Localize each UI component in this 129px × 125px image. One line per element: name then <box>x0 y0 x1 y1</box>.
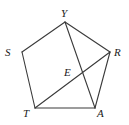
vertex-label-S: S <box>5 47 11 58</box>
edge-S-Y <box>22 22 65 52</box>
edge-T-S <box>22 52 35 108</box>
geometry-figure: YSRTAE <box>0 0 129 125</box>
vertex-label-Y: Y <box>61 8 67 19</box>
vertex-label-R: R <box>114 47 121 58</box>
vertex-label-E: E <box>64 67 71 78</box>
pentagon-outline <box>22 22 110 108</box>
edge-R-A <box>95 52 110 108</box>
edge-Y-R <box>65 22 110 52</box>
diagonal-T-R <box>35 52 110 108</box>
vertex-label-T: T <box>23 108 29 119</box>
vertex-label-A: A <box>97 108 104 119</box>
diagonal-Y-A <box>65 22 95 108</box>
